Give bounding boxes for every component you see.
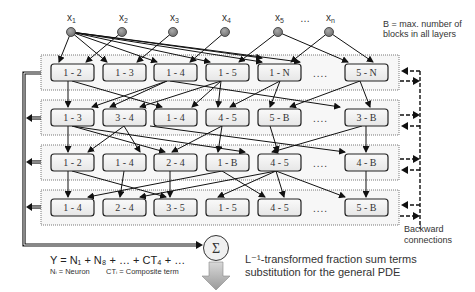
note-b-line2: blocks in all layers <box>383 29 457 39</box>
input-node-x3: x3 <box>169 12 180 37</box>
layer-ellipsis: .... <box>313 68 328 79</box>
block: 1 - 5 <box>206 64 249 81</box>
block: 1 - 4 <box>154 109 197 126</box>
block-label: 1 - 5 <box>218 67 236 78</box>
block: 4 - B <box>345 154 388 171</box>
layer-ellipsis: .... <box>313 113 328 124</box>
pde-caption-line2: substitution for the general PDE <box>245 266 400 278</box>
input-node-x2: x2 <box>118 12 129 37</box>
block: 1 - 3 <box>51 109 94 126</box>
formula-legend-neuron: Nᵢ = Neuron <box>50 267 90 276</box>
arrow-right-icon <box>413 111 420 119</box>
layer-ellipsis: .... <box>313 158 328 169</box>
arrow-down-icon <box>202 262 230 290</box>
block-label: 4 - 5 <box>270 157 288 168</box>
svg-text:x3: x3 <box>170 12 179 24</box>
block-label: 2 - 4 <box>166 157 184 168</box>
input-subscript: 5 <box>280 17 284 24</box>
block-label: 3 - 5 <box>166 202 184 213</box>
block-label: 1 - 4 <box>166 67 184 78</box>
block-label: 1 - 4 <box>63 202 81 213</box>
block: 2 - 4 <box>154 154 197 171</box>
input-subscript: 2 <box>124 17 128 24</box>
input-circle-icon <box>221 28 230 37</box>
block: 4 - 5 <box>258 154 301 171</box>
block-label: 1 - 3 <box>115 67 133 78</box>
block-label: 1 - 2 <box>63 157 81 168</box>
layer-ellipsis: .... <box>313 203 328 214</box>
block: 4 - 5 <box>206 109 249 126</box>
svg-text:x5: x5 <box>275 12 284 24</box>
input-subscript: 4 <box>227 17 231 24</box>
backward-label-line1: Backward <box>404 224 444 234</box>
input-subscript: 1 <box>72 17 76 24</box>
block: 5 - N <box>345 64 388 81</box>
input-subscript: 3 <box>175 17 179 24</box>
input-circle-icon <box>325 28 334 37</box>
block-label: 1 - 2 <box>63 67 81 78</box>
block-label: 1 - 4 <box>115 157 133 168</box>
block-label: 5 - B <box>357 202 377 213</box>
block: 1 - 4 <box>154 64 197 81</box>
block-label: 3 - 4 <box>115 112 133 123</box>
pde-caption-line1: L⁻¹-transformed fraction sum terms <box>245 253 417 265</box>
input-nodes: x1 x2 x3 x4 x5 … xn <box>67 12 336 37</box>
block-label: 1 - 3 <box>63 112 81 123</box>
gmdh-network-diagram: x1 x2 x3 x4 x5 … xn B = max. number of b… <box>0 0 475 292</box>
block-label: 1 - 4 <box>166 112 184 123</box>
svg-text:x1: x1 <box>67 12 76 24</box>
block-label: 5 - N <box>356 67 377 78</box>
input-node-xn: xn <box>325 12 336 37</box>
sigma-icon: Σ <box>212 241 220 256</box>
input-subscript: n <box>331 17 335 24</box>
block: 5 - B <box>345 199 388 216</box>
input-node-x1: x1 <box>67 12 77 37</box>
block: 2 - 4 <box>103 199 146 216</box>
pde-caption: L⁻¹-transformed fraction sum terms subst… <box>245 253 417 278</box>
block: 1 - 5 <box>206 199 249 216</box>
formula: Y = N₁ + N₈ + … + CT₄ + … Nᵢ = Neuron CT… <box>50 254 185 276</box>
input-circle-icon <box>274 28 283 37</box>
input-circle-icon <box>169 28 178 37</box>
arrow-left-icon <box>26 203 32 211</box>
block-label: 4 - 5 <box>218 112 236 123</box>
formula-legend-composite: CTᵢ = Composite term <box>106 267 179 276</box>
block-label: 1 - N <box>269 67 290 78</box>
block: 1 - B <box>206 154 249 171</box>
block-label: 1 - B <box>218 157 238 168</box>
arrow-right-icon <box>413 77 420 85</box>
block: 5 - B <box>258 109 301 126</box>
block-label: 2 - 4 <box>115 202 133 213</box>
input-node-x5: x5 <box>274 12 285 37</box>
formula-main: Y = N₁ + N₈ + … + CT₄ + … <box>50 254 185 266</box>
arrow-right-icon <box>413 212 420 220</box>
arrow-left-icon <box>26 158 32 166</box>
note-b-line1: B = max. number of <box>383 19 462 29</box>
backward-label: Backward connections <box>404 224 453 245</box>
block-label: 4 - 5 <box>270 202 288 213</box>
arrow-left-icon <box>401 67 408 75</box>
svg-text:xn: xn <box>326 12 335 24</box>
svg-text:x2: x2 <box>119 12 128 24</box>
block: 1 - 3 <box>103 64 146 81</box>
svg-text:x4: x4 <box>222 12 231 24</box>
arrow-left-icon <box>26 114 32 122</box>
block: 4 - 5 <box>258 199 301 216</box>
block-label: 5 - B <box>270 112 290 123</box>
block: 1 - 4 <box>103 154 146 171</box>
block: 3 - B <box>345 109 388 126</box>
block: 1 - 2 <box>51 154 94 171</box>
arrow-left-icon <box>401 166 408 174</box>
backward-arrowheads <box>401 67 420 220</box>
note-b: B = max. number of blocks in all layers <box>383 19 462 39</box>
block: 1 - 4 <box>51 199 94 216</box>
arrow-right-icon <box>413 155 420 163</box>
inputs-ellipsis: … <box>300 13 310 24</box>
input-circle-icon <box>118 28 127 37</box>
block: 1 - N <box>258 64 301 81</box>
block-label: 4 - B <box>357 157 377 168</box>
block: 3 - 4 <box>103 109 146 126</box>
block: 1 - 2 <box>51 64 94 81</box>
input-node-x4: x4 <box>221 12 232 37</box>
block-label: 3 - B <box>357 112 377 123</box>
